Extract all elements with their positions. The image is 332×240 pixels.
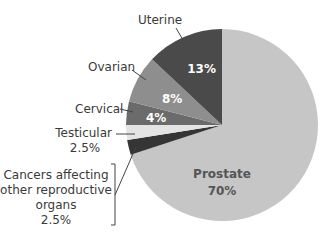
- pct-testicular: 2.5%: [70, 141, 101, 155]
- leader-other: [115, 147, 136, 195]
- label-testicular: Testicular: [54, 126, 112, 140]
- label-other-line3: organs: [36, 198, 77, 212]
- label-uterine: Uterine: [138, 13, 182, 27]
- pct-prostate: 70%: [208, 184, 237, 198]
- label-other-line2: other reproductive: [0, 183, 112, 197]
- label-other-line1: Cancers affecting: [3, 168, 108, 182]
- pct-ovarian: 8%: [162, 92, 182, 106]
- label-ovarian: Ovarian: [88, 60, 135, 74]
- pct-other: 2.5%: [41, 213, 72, 227]
- label-cervical: Cervical: [75, 102, 123, 116]
- label-prostate: Prostate: [193, 167, 251, 181]
- leader-uterine: [176, 28, 183, 40]
- pct-uterine: 13%: [187, 62, 216, 76]
- pie-chart: Uterine 13% Ovarian 8% Cervical 4% Testi…: [0, 0, 332, 240]
- pct-cervical: 4%: [146, 111, 166, 125]
